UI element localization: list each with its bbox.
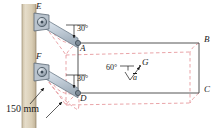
label-point-G: G: [142, 58, 149, 67]
label-point-D: D: [80, 94, 87, 103]
label-point-E: E: [36, 2, 42, 11]
acceleration-symbol: a: [133, 73, 137, 82]
label-point-A: A: [80, 44, 86, 53]
point-G-dot: [139, 65, 141, 67]
label-point-C: C: [204, 85, 210, 94]
label-point-B: B: [204, 35, 210, 44]
label-acceleration-vector: a: [133, 73, 137, 82]
label-angle-bottom: 30°: [77, 75, 88, 83]
label-point-F: F: [36, 52, 42, 61]
label-angle-accel: 60°: [106, 64, 117, 72]
label-dimension-150mm: 150 mm: [6, 104, 39, 114]
wall-bracket-F: [34, 63, 49, 81]
acceleration-vector-group: [120, 66, 140, 80]
label-angle-top: 30°: [77, 25, 88, 33]
wall-bracket-E: [34, 13, 49, 31]
